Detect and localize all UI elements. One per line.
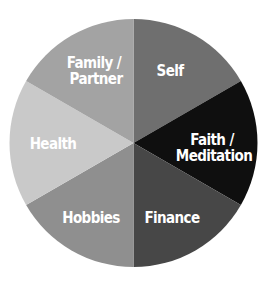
label-family-partner: Family / Partner [67, 54, 125, 88]
label-self: Self [157, 62, 185, 80]
label-finance: Finance [144, 209, 200, 227]
pie-chart: Self Family / Partner Health Faith / Med… [0, 0, 265, 283]
label-hobbies: Hobbies [62, 209, 120, 227]
label-health: Health [30, 135, 77, 153]
